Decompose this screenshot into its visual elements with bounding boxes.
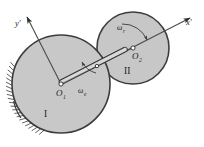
label-x-prime: x' xyxy=(185,17,192,27)
hatch-tick xyxy=(10,62,15,67)
label-o2-subscript: 2 xyxy=(139,57,142,63)
kinematics-figure: y' x' O 1 O 2 ω e ω r I II xyxy=(0,0,204,147)
label-o1-subscript: 1 xyxy=(63,94,66,100)
joint-mid[interactable] xyxy=(95,64,98,67)
joint-o1[interactable] xyxy=(59,82,63,86)
hatch-tick xyxy=(8,70,13,74)
hatch-tick xyxy=(6,78,12,82)
hatch-tick xyxy=(22,121,28,123)
hatch-tick xyxy=(14,113,21,114)
joint-o2[interactable] xyxy=(131,46,135,50)
label-omega-e: ω xyxy=(78,86,83,95)
label-o2: O xyxy=(132,51,139,61)
label-disc-one-roman: I xyxy=(44,109,47,119)
label-omega-r: ω xyxy=(117,23,122,32)
label-o1: O xyxy=(56,88,63,98)
hatch-tick xyxy=(25,123,31,126)
hatch-tick xyxy=(28,125,34,128)
hatch-tick xyxy=(9,66,14,71)
hatch-tick xyxy=(39,130,44,135)
hatch-tick xyxy=(32,127,38,131)
hatch-tick xyxy=(35,129,40,133)
label-disc-two-roman: II xyxy=(124,66,130,76)
hatch-tick xyxy=(19,118,26,120)
diagram-canvas: y' x' O 1 O 2 ω e ω r I II xyxy=(0,0,204,147)
hatch-tick xyxy=(7,74,13,78)
hatch-tick xyxy=(6,82,12,85)
label-y-prime: y' xyxy=(14,18,21,28)
